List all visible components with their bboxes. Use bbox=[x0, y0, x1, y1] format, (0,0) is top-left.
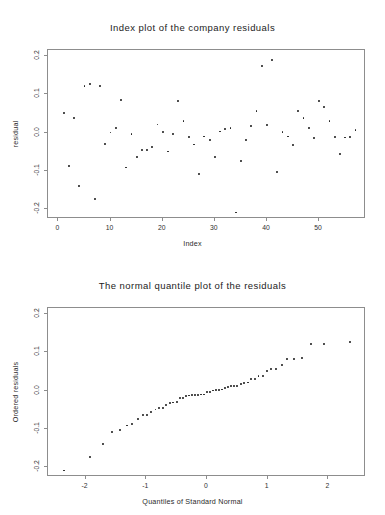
data-point bbox=[349, 136, 351, 138]
x-axis-tick-label: 0 bbox=[204, 482, 208, 489]
data-point bbox=[176, 401, 178, 403]
data-point bbox=[254, 378, 256, 380]
y-axis-tick-label: -0.2 bbox=[33, 461, 40, 473]
data-point bbox=[250, 125, 252, 127]
data-point bbox=[111, 431, 113, 433]
data-point bbox=[323, 106, 325, 108]
x-axis-tick-label: 50 bbox=[314, 224, 322, 231]
data-point bbox=[212, 390, 214, 392]
data-point bbox=[126, 425, 128, 427]
data-point bbox=[313, 137, 315, 139]
data-point bbox=[261, 65, 263, 67]
data-point bbox=[110, 132, 112, 134]
data-point bbox=[182, 397, 184, 399]
data-point bbox=[63, 470, 65, 472]
data-point bbox=[355, 129, 357, 131]
data-point bbox=[266, 370, 268, 372]
data-point bbox=[233, 385, 235, 387]
data-point bbox=[344, 137, 346, 139]
data-point bbox=[185, 395, 187, 397]
data-point bbox=[158, 407, 160, 409]
normal-qq-plot-figure: The normal quantile plot of the residual… bbox=[0, 258, 385, 515]
y-axis-tick bbox=[44, 466, 47, 467]
data-point bbox=[162, 407, 164, 409]
x-axis-tick-label: 1 bbox=[265, 482, 269, 489]
data-point bbox=[125, 167, 127, 169]
data-point bbox=[293, 358, 295, 360]
data-point bbox=[308, 127, 310, 129]
data-point bbox=[339, 153, 341, 155]
data-point bbox=[165, 404, 167, 406]
data-point bbox=[188, 395, 190, 397]
index-plot-title: Index plot of the company residuals bbox=[0, 22, 385, 33]
y-axis-tick bbox=[44, 208, 47, 209]
x-axis-tick bbox=[267, 476, 268, 479]
data-point bbox=[155, 409, 157, 411]
data-point bbox=[89, 83, 91, 85]
data-point bbox=[287, 136, 289, 138]
y-axis-tick bbox=[44, 132, 47, 133]
data-point bbox=[247, 382, 249, 384]
normal-qq-plot-xaxis-title: Quantiles of Standard Normal bbox=[0, 497, 385, 506]
data-point bbox=[194, 394, 196, 396]
data-point bbox=[203, 394, 205, 396]
data-point bbox=[214, 156, 216, 158]
x-axis-tick bbox=[206, 476, 207, 479]
y-axis-tick-label: -0.1 bbox=[33, 422, 40, 434]
x-axis-tick-label: 30 bbox=[210, 224, 218, 231]
normal-qq-plot-title: The normal quantile plot of the residual… bbox=[0, 280, 385, 291]
data-point bbox=[198, 173, 200, 175]
data-point bbox=[270, 368, 272, 370]
data-point bbox=[329, 120, 331, 122]
data-point bbox=[203, 136, 205, 138]
data-point bbox=[323, 343, 325, 345]
y-axis-tick-label: 0.0 bbox=[33, 127, 40, 136]
x-axis-tick-label: 10 bbox=[106, 224, 114, 231]
index-plot-panel bbox=[47, 49, 365, 218]
data-point bbox=[146, 149, 148, 151]
data-point bbox=[250, 378, 252, 380]
x-axis-tick bbox=[327, 476, 328, 479]
data-point bbox=[286, 358, 288, 360]
x-axis-tick-label: 2 bbox=[325, 482, 329, 489]
data-point bbox=[245, 139, 247, 141]
data-point bbox=[276, 171, 278, 173]
data-point bbox=[188, 136, 190, 138]
data-point bbox=[99, 85, 101, 87]
data-point bbox=[240, 160, 242, 162]
y-axis-tick bbox=[44, 428, 47, 429]
x-axis-tick bbox=[57, 218, 58, 221]
data-point bbox=[200, 394, 202, 396]
data-point bbox=[94, 198, 96, 200]
y-axis-tick bbox=[44, 55, 47, 56]
data-point bbox=[215, 389, 217, 391]
data-point bbox=[104, 143, 106, 145]
data-point bbox=[318, 100, 320, 102]
data-point bbox=[131, 423, 133, 425]
data-point bbox=[275, 368, 277, 370]
data-point bbox=[142, 414, 144, 416]
x-axis-tick bbox=[266, 218, 267, 221]
data-point bbox=[84, 85, 86, 87]
data-point bbox=[89, 456, 91, 458]
x-axis-tick bbox=[318, 218, 319, 221]
data-point bbox=[282, 131, 284, 133]
data-point bbox=[230, 385, 232, 387]
data-point bbox=[206, 391, 208, 393]
data-point bbox=[218, 389, 220, 391]
data-point bbox=[68, 165, 70, 167]
data-point bbox=[120, 99, 122, 101]
data-point bbox=[177, 100, 179, 102]
y-axis-tick-label: 0.2 bbox=[33, 308, 40, 317]
data-point bbox=[157, 124, 159, 126]
data-point bbox=[137, 418, 139, 420]
data-point bbox=[240, 383, 242, 385]
data-point bbox=[151, 146, 153, 148]
data-point bbox=[172, 402, 174, 404]
data-point bbox=[146, 414, 148, 416]
data-point bbox=[271, 59, 273, 61]
data-point bbox=[102, 443, 104, 445]
data-point bbox=[183, 120, 185, 122]
data-point bbox=[73, 117, 75, 119]
data-point bbox=[266, 124, 268, 126]
